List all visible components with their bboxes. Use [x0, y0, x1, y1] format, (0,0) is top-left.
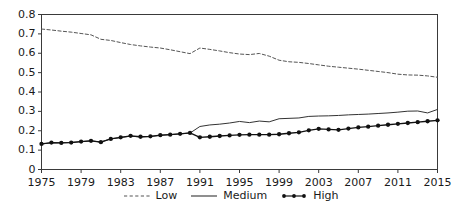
- line-chart: 00.10.20.30.40.50.60.70.8 19751979198319…: [0, 0, 461, 214]
- legend-swatch-high-marker-line-icon: [280, 191, 308, 201]
- legend-swatch-medium-solid-line-icon: [190, 191, 218, 201]
- legend-label-low: Low: [156, 190, 178, 201]
- y-axis-tick-label: 0.3: [18, 105, 36, 116]
- y-axis-tick-label: 0.1: [18, 144, 36, 155]
- series-line-low: [42, 29, 438, 77]
- y-axis-tick-label: 0.2: [18, 125, 36, 136]
- series-markers-high: [39, 118, 439, 146]
- legend-item-medium: Medium: [190, 190, 267, 201]
- chart-legend: Low Medium High: [0, 190, 461, 201]
- y-axis-tick-label: 0.5: [18, 67, 36, 78]
- legend-label-high: High: [313, 190, 338, 201]
- x-axis-tick-label: 2015: [413, 177, 461, 188]
- y-axis-tick-label: 0.7: [18, 28, 36, 39]
- y-axis-tick-label: 0: [29, 164, 36, 175]
- plot-frame: [42, 15, 438, 170]
- y-axis-tick-label: 0.4: [18, 86, 36, 97]
- y-axis-tick-label: 0.8: [18, 9, 36, 20]
- legend-item-high: High: [280, 190, 338, 201]
- legend-swatch-low-dashed-line-icon: [123, 191, 151, 201]
- legend-item-low: Low: [123, 190, 178, 201]
- y-axis-tick-label: 0.6: [18, 47, 36, 58]
- legend-label-medium: Medium: [223, 190, 267, 201]
